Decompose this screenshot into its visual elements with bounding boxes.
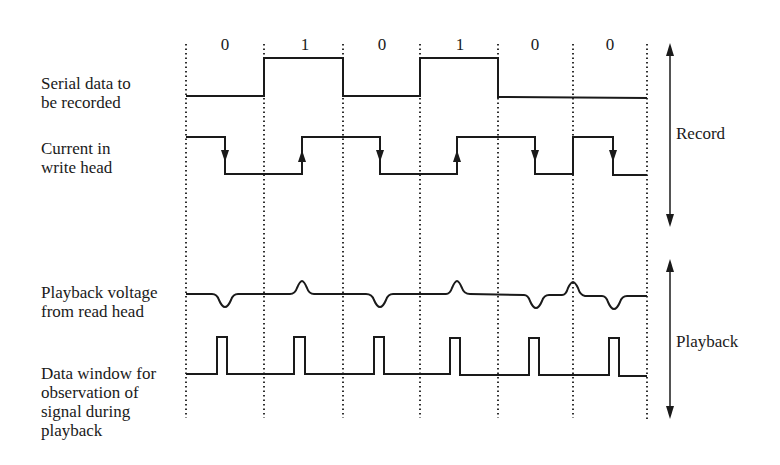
waveforms [0,0,780,465]
data-window-waveform [186,337,647,376]
arrow-down-icon [666,214,674,227]
down-arrow-icon [221,150,229,162]
bit-boundaries [186,44,647,420]
down-arrow-icon [531,150,539,162]
down-arrow-icon [609,150,617,162]
playback-voltage-waveform [186,281,647,309]
arrow-up-icon [666,43,674,56]
up-arrow-icon [298,150,306,162]
down-arrow-icon [376,150,384,162]
arrow-up-icon [666,259,674,272]
current-direction-arrows [221,150,617,162]
serial-data-waveform [186,58,647,98]
up-arrow-icon [453,150,461,162]
arrow-down-icon [666,406,674,419]
write-current-waveform [186,137,647,175]
